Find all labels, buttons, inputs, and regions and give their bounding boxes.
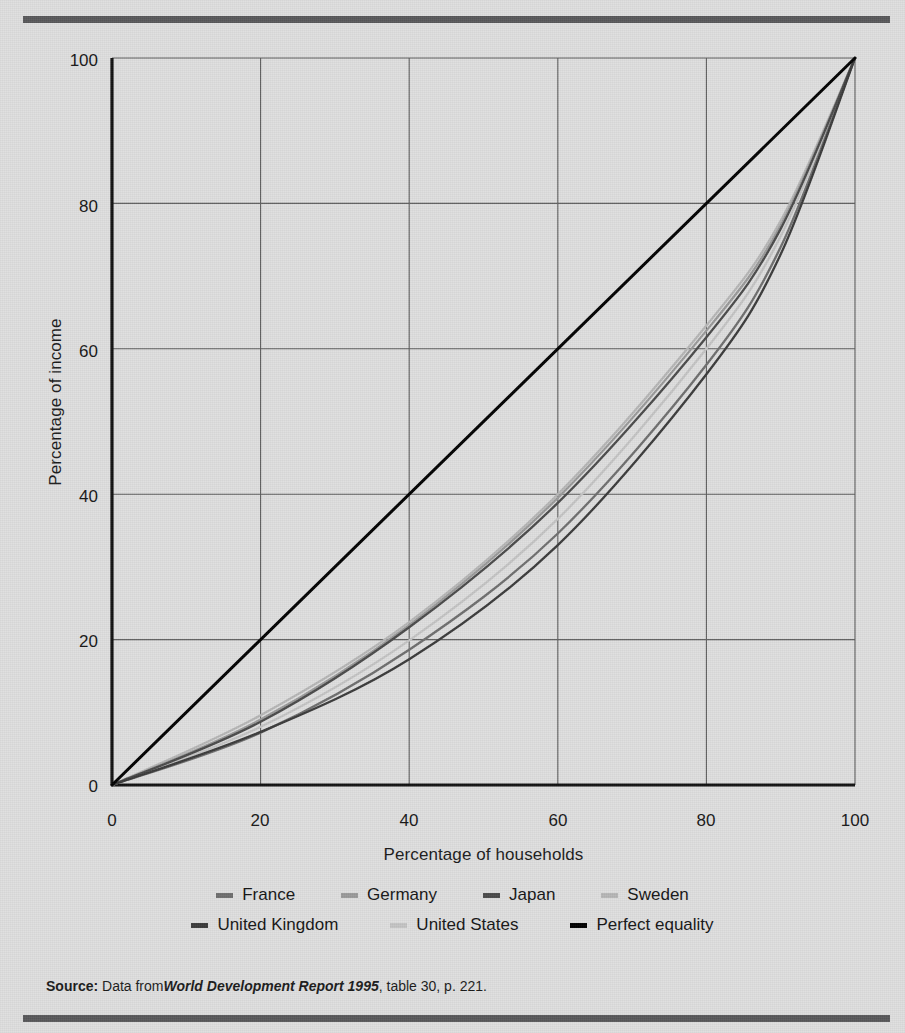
y-tick-label-60: 60: [46, 342, 98, 362]
source-report-title: World Development Report 1995: [163, 978, 378, 994]
source-text-after: , table 30, p. 221.: [379, 978, 487, 994]
y-tick-label-0: 0: [46, 777, 98, 797]
legend-item-germany[interactable]: Germany: [341, 885, 437, 905]
chart-area: Percentage of income Percentage of house…: [0, 30, 905, 860]
x-axis-title: Percentage of households: [112, 845, 855, 865]
legend-swatch-icon-japan: [483, 893, 500, 898]
source-label: Source:: [46, 978, 98, 994]
legend-swatch-icon-sweden: [601, 893, 618, 898]
x-tick-label-60: 60: [533, 811, 583, 831]
legend-row-2: United Kingdom United States Perfect equ…: [0, 910, 905, 940]
bottom-rule: [23, 1015, 890, 1022]
legend-item-sweden[interactable]: Sweden: [601, 885, 688, 905]
source-note: Source: Data fromWorld Development Repor…: [46, 978, 487, 994]
legend-label-germany: Germany: [367, 885, 437, 905]
legend-label-united-states: United States: [416, 915, 518, 935]
chart-legend: France Germany Japan Sweden United Kingd…: [0, 880, 905, 940]
legend-item-japan[interactable]: Japan: [483, 885, 555, 905]
chart-plot: [0, 30, 905, 860]
lorenz-curve-figure: Percentage of income Percentage of house…: [0, 0, 905, 1033]
x-tick-label-40: 40: [384, 811, 434, 831]
legend-label-sweden: Sweden: [627, 885, 688, 905]
y-tick-label-40: 40: [46, 487, 98, 507]
legend-item-united-kingdom[interactable]: United Kingdom: [191, 915, 338, 935]
y-axis-title: Percentage of income: [46, 302, 66, 502]
y-tick-label-20: 20: [46, 632, 98, 652]
legend-item-united-states[interactable]: United States: [390, 915, 518, 935]
y-tick-label-100: 100: [46, 51, 98, 71]
legend-item-perfect-equality[interactable]: Perfect equality: [570, 915, 713, 935]
y-tick-label-80: 80: [46, 197, 98, 217]
x-tick-label-100: 100: [830, 811, 880, 831]
legend-swatch-icon-perfect-equality: [570, 923, 587, 928]
x-tick-label-20: 20: [235, 811, 285, 831]
legend-label-france: France: [242, 885, 295, 905]
source-text-before: Data from: [98, 978, 163, 994]
legend-row-1: France Germany Japan Sweden: [0, 880, 905, 910]
x-tick-label-0: 0: [87, 811, 137, 831]
legend-label-perfect-equality: Perfect equality: [596, 915, 713, 935]
legend-swatch-icon-united-states: [390, 923, 407, 928]
legend-swatch-icon-germany: [341, 893, 358, 898]
x-tick-label-80: 80: [681, 811, 731, 831]
legend-swatch-icon-united-kingdom: [191, 923, 208, 928]
top-rule: [23, 16, 890, 23]
legend-item-france[interactable]: France: [216, 885, 295, 905]
legend-label-japan: Japan: [509, 885, 555, 905]
legend-label-united-kingdom: United Kingdom: [217, 915, 338, 935]
legend-swatch-icon-france: [216, 893, 233, 898]
